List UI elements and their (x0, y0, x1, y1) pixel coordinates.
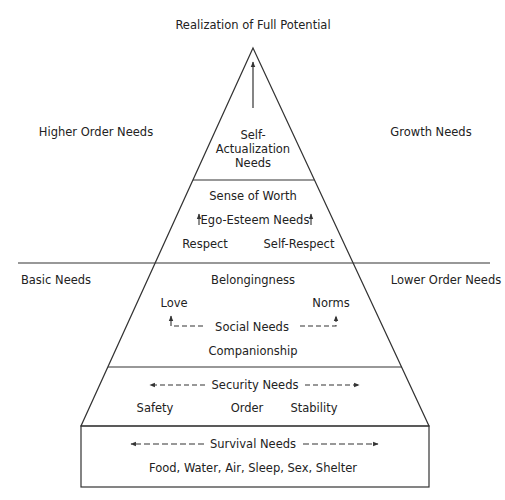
level-ego-esteem-item: Respect (182, 237, 228, 251)
level-survival-items: Food, Water, Air, Sleep, Sex, Shelter (149, 461, 357, 475)
level-ego-esteem-item: Self-Respect (264, 237, 335, 251)
level-security-item: Order (231, 401, 264, 415)
level-social-heading: Belongingness (211, 273, 295, 287)
level-security-item: Stability (290, 401, 337, 415)
level-social-label: Social Needs (215, 320, 289, 334)
dashed-elbow-arrow-left-icon (171, 316, 203, 326)
diagram-title: Realization of Full Potential (175, 18, 330, 32)
label-line: Needs (216, 156, 290, 170)
level-ego-esteem-heading: Sense of Worth (209, 189, 296, 203)
side-label-basic: Basic Needs (21, 273, 91, 287)
level-survival-label: Survival Needs (210, 437, 296, 451)
level-social-item-norms: Norms (312, 296, 349, 310)
level-social-item-love: Love (160, 296, 187, 310)
side-label-growth: Growth Needs (390, 125, 471, 139)
maslow-pyramid-diagram (0, 0, 505, 500)
side-label-lower-order: Lower Order Needs (391, 273, 502, 287)
level-self-actualization-label: Self- Actualization Needs (216, 128, 290, 170)
level-security-label: Security Needs (212, 378, 299, 392)
dashed-elbow-arrow-right-icon (300, 316, 336, 326)
level-ego-esteem-label: Ego-Esteem Needs (201, 213, 310, 227)
side-label-higher-order: Higher Order Needs (39, 125, 153, 139)
survival-box (81, 426, 429, 487)
level-security-item: Safety (137, 401, 174, 415)
level-social-footer: Companionship (208, 344, 297, 358)
label-line: Actualization (216, 142, 290, 156)
label-line: Self- (216, 128, 290, 142)
pyramid-outline (81, 48, 429, 426)
